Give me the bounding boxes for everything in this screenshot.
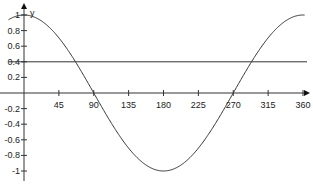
cosine-chart: y459013518022527031536010.80.60.40.2-0.2… [0,0,313,193]
x-tick-label: 315 [261,100,276,110]
x-tick-label: 45 [54,100,64,110]
y-tick-label: 1 [15,10,20,20]
y-axis-label: y [30,8,35,18]
y-tick-label: -0.8 [4,150,20,160]
x-tick-label: 135 [121,100,136,110]
x-tick-label: 180 [156,100,171,110]
y-tick-label: -0.6 [4,135,20,145]
x-axis-arrow-icon [304,90,310,96]
y-tick-label: 0.2 [7,72,20,82]
y-tick-label: -0.2 [4,104,20,114]
axes [0,3,310,181]
x-tick-label: 225 [191,100,206,110]
y-tick-label: 0.4 [7,57,20,67]
y-tick-label: 0.8 [7,26,20,36]
y-tick-label: -0.4 [4,119,20,129]
y-tick-label: -1 [12,166,20,176]
x-tick-label: 90 [89,100,99,110]
x-tick-label: 360 [295,100,310,110]
tick-labels: y459013518022527031536010.80.60.40.2-0.2… [4,8,310,176]
y-axis-arrow-icon [21,3,27,9]
x-tick-label: 270 [226,100,241,110]
y-tick-label: 0.6 [7,41,20,51]
